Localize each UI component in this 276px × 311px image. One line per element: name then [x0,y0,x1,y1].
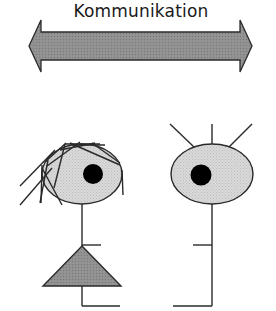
right-figure [170,124,253,306]
antenna-right [229,124,252,147]
right-figure-eye-icon [191,165,212,186]
antenna-left [170,124,194,147]
double-arrow-icon [29,20,252,72]
right-figure-head [171,144,253,204]
left-figure-eye-icon [83,164,103,184]
left-figure-skirt [43,246,121,286]
left-figure [20,142,123,306]
communication-diagram [0,0,276,311]
